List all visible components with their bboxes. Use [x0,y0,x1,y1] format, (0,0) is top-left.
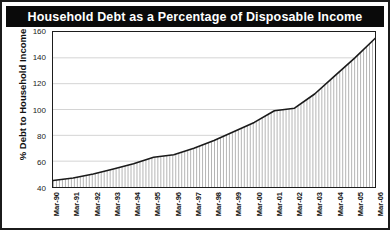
y-axis-ticks: 406080100120140160 [20,29,46,188]
chart-title-bar: Household Debt as a Percentage of Dispos… [6,6,384,27]
x-tick-label: Mar-04 [336,192,345,216]
y-tick-label: 140 [24,53,46,62]
x-tick-label: Mar-95 [153,192,162,216]
y-tick-label: 80 [24,131,46,140]
chart-container: Household Debt as a Percentage of Dispos… [0,0,390,230]
x-tick-label: Mar-94 [133,192,142,216]
x-tick-label: Mar-90 [52,192,61,216]
page-title: Household Debt as a Percentage of Dispos… [28,10,363,24]
x-tick-label: Mar-99 [234,192,243,216]
x-tick-label: Mar-06 [376,192,385,216]
y-tick-label: 60 [24,157,46,166]
y-tick-label: 40 [24,184,46,193]
x-tick-label: Mar-03 [315,192,324,216]
x-tick-label: Mar-05 [356,192,365,216]
x-tick-label: Mar-91 [72,192,81,216]
y-tick-label: 160 [24,27,46,36]
x-tick-label: Mar-96 [174,192,183,216]
area-chart-svg [53,32,375,187]
x-axis-ticks: Mar-90Mar-91Mar-92Mar-93Mar-94Mar-95Mar-… [52,190,376,230]
x-tick-label: Mar-92 [93,192,102,216]
chart-canvas: % Debt to Household Income 4060801001201… [4,29,386,226]
y-tick-label: 100 [24,105,46,114]
x-tick-label: Mar-97 [194,192,203,216]
x-tick-label: Mar-00 [255,192,264,216]
area-fill [53,38,375,187]
x-tick-label: Mar-01 [275,192,284,216]
x-tick-label: Mar-98 [214,192,223,216]
y-tick-label: 120 [24,79,46,88]
x-tick-label: Mar-02 [295,192,304,216]
plot-area [52,31,376,188]
x-tick-label: Mar-93 [113,192,122,216]
